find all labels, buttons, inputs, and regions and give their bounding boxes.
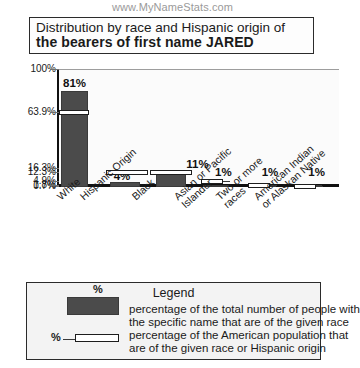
bar-value-white: 81% xyxy=(63,77,86,89)
legend-solid-description-line-2: the specific name that are of the given … xyxy=(129,316,360,329)
legend-solid-percent-symbol: % xyxy=(93,283,103,295)
bar-hollow-black xyxy=(150,170,192,175)
legend-solid-swatch xyxy=(67,297,119,315)
y-axis-leader-100% xyxy=(50,69,59,70)
legend-hollow-description: percentage of the American population th… xyxy=(129,329,348,354)
bar-solid-white xyxy=(61,91,88,187)
x-axis-labels: WhiteHispanic OriginBlackAsian or Pacifi… xyxy=(0,192,345,270)
bar-hollow-white xyxy=(59,110,89,115)
gridline-100% xyxy=(59,69,339,70)
site-watermark: www.MyNameStats.com xyxy=(0,1,345,13)
legend-solid-description: percentage of the total number of people… xyxy=(129,303,360,328)
hollow-leader-american-indian-or-alaskan-native xyxy=(316,186,323,187)
legend-hollow-description-line-2: are of the given race or Hispanic origin xyxy=(129,342,348,355)
bar-hollow-american-indian-or-alaskan-native xyxy=(294,184,316,189)
chart-title-line-1: Distribution by race and Hispanic origin… xyxy=(36,20,309,35)
chart-title-line-2: the bearers of first name JARED xyxy=(36,35,309,50)
legend-hollow-swatch xyxy=(75,334,119,342)
y-axis-leader-4.9% xyxy=(50,181,59,182)
y-axis-leader-16.3% xyxy=(50,168,59,169)
chart-legend: Legend % percentage of the total number … xyxy=(26,282,321,360)
y-axis-leader-63.9% xyxy=(50,112,59,113)
legend-solid-description-line-1: percentage of the total number of people… xyxy=(129,303,360,316)
chart-title-box: Distribution by race and Hispanic origin… xyxy=(29,17,314,54)
legend-hollow-percent-symbol: % xyxy=(51,331,61,343)
legend-hollow-description-line-1: percentage of the American population th… xyxy=(129,329,348,342)
